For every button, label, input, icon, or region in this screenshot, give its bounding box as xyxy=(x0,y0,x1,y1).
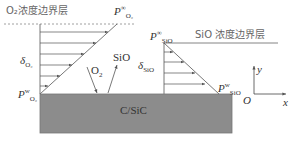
delta-o2-label: δO₂ xyxy=(20,55,33,69)
o2-profile-line xyxy=(40,24,117,94)
x-axis-label: x xyxy=(283,97,288,108)
y-axis-label: y xyxy=(257,64,262,75)
sio-velocity-arrows xyxy=(164,52,205,84)
origin-label: O xyxy=(243,95,251,106)
o2-flux-label: O2 xyxy=(91,65,102,79)
delta-sio-label: δSiO xyxy=(138,60,154,74)
p-o2-wall-label: PwO₂ xyxy=(18,88,37,103)
o2-boundary-layer-label: O₂浓度边界层 xyxy=(6,6,68,16)
substrate-label: C/SiC xyxy=(120,105,147,116)
sio-boundary-layer-label: SiO 浓度边界层 xyxy=(195,30,265,40)
sio-flux-arrow xyxy=(108,65,117,93)
p-sio-inf-label: P∞SiO xyxy=(150,30,173,45)
sio-profile-line xyxy=(164,43,219,94)
p-o2-inf-label: P∞O₂ xyxy=(114,5,133,20)
sio-flux-label: SiO xyxy=(113,52,130,63)
p-sio-wall-label: PwSiO xyxy=(218,82,241,97)
